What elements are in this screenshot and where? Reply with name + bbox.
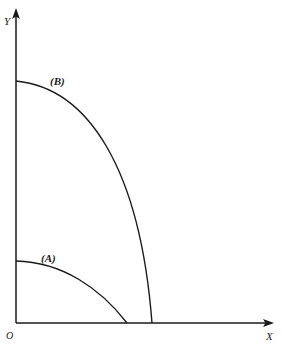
curve-b-label: (B) xyxy=(50,76,65,87)
x-axis-label: X xyxy=(266,331,273,342)
curve-b xyxy=(16,81,152,323)
figure-drawing-surface xyxy=(0,0,283,349)
y-axis-label: Y xyxy=(4,16,10,27)
curve-a xyxy=(16,261,127,323)
origin-label: O xyxy=(6,331,13,341)
curve-a-label: (A) xyxy=(41,253,56,264)
figure-canvas: Y X O (B) (A) xyxy=(0,0,283,349)
